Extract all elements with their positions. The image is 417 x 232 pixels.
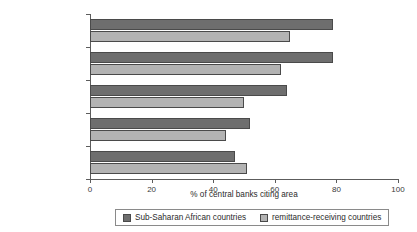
x-axis-tick: [398, 179, 399, 183]
y-axis-tick: [86, 80, 90, 81]
chart-legend: Sub-Saharan African countries remittance…: [115, 209, 389, 226]
legend-swatch-icon-series-1: [260, 214, 268, 222]
x-axis-tick: [213, 179, 214, 183]
bar: [90, 130, 226, 141]
x-axis-tick: [90, 179, 91, 183]
bar-chart: 020406080100better statistics and studie…: [0, 0, 417, 232]
x-axis-tick: [336, 179, 337, 183]
bar: [90, 97, 244, 108]
x-axis-line: [90, 179, 399, 180]
legend-item-sub-saharan-african-countries: Sub-Saharan African countries: [123, 213, 246, 222]
bar: [90, 52, 333, 63]
legend-swatch-icon-series-0: [123, 214, 131, 222]
y-axis-tick: [86, 47, 90, 48]
y-axis-tick: [86, 146, 90, 147]
legend-item-remittance-receiving-countries: remittance-receiving countries: [260, 213, 381, 222]
bar: [90, 85, 287, 96]
bar: [90, 118, 250, 129]
bar: [90, 151, 235, 162]
plot-area: 020406080100better statistics and studie…: [90, 14, 398, 179]
bar: [90, 64, 281, 75]
x-axis-tick: [275, 179, 276, 183]
x-axis-tick: [152, 179, 153, 183]
bar: [90, 163, 247, 174]
chart-title-remnant: [8, 0, 408, 2]
bar: [90, 31, 290, 42]
y-axis-tick: [86, 113, 90, 114]
legend-label-series-1: remittance-receiving countries: [272, 213, 381, 222]
y-axis-tick: [86, 14, 90, 15]
x-axis-title: % of central banks citing area: [90, 190, 398, 199]
bar: [90, 19, 333, 30]
legend-label-series-0: Sub-Saharan African countries: [135, 213, 246, 222]
y-axis-tick: [86, 179, 90, 180]
